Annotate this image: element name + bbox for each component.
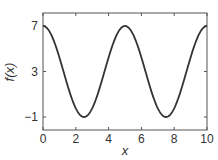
y-axis-label: f(x): [2, 63, 17, 82]
y-tick-label: 7: [31, 19, 38, 33]
x-axis-label: x: [121, 143, 129, 158]
x-tick-label: 8: [171, 132, 178, 146]
y-tick-label: −1: [24, 110, 38, 124]
y-tick-label: 3: [31, 65, 38, 79]
x-tick-label: 4: [105, 132, 112, 146]
x-tick-label: 10: [200, 132, 214, 146]
x-tick-label: 0: [40, 132, 47, 146]
x-tick-label: 6: [138, 132, 145, 146]
plot-frame: [43, 13, 207, 130]
axis-ticks: [43, 13, 207, 130]
chart: 0246810−137 x f(x): [0, 0, 218, 160]
function-curve: [43, 26, 207, 117]
x-tick-label: 2: [72, 132, 79, 146]
